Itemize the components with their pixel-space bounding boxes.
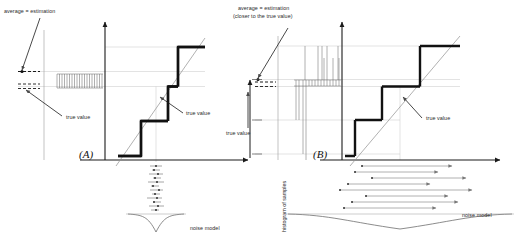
panel-b-true-value-label-right: true value — [426, 115, 450, 121]
panel-b-guides — [255, 46, 460, 154]
panel-b-histogram-axis-label: histogram of samples — [281, 181, 287, 232]
panel-b-true-value-label-left: true value — [226, 130, 250, 136]
figure-canvas: average = estimation true value true val… — [0, 0, 518, 242]
panel-b-true-value-pointer-right — [403, 97, 422, 118]
panel-a-sample-dots — [152, 165, 160, 211]
panel-b-identity-line — [350, 36, 460, 166]
panel-a-noise-model-label: noise model — [190, 225, 220, 231]
panel-a-identity-line — [116, 38, 205, 166]
panel-b-noise-model-label: noise model — [462, 212, 492, 218]
panel-a-average-dot — [20, 70, 23, 73]
panel-a-true-value-pointer-right — [160, 97, 183, 113]
panel-b-sample-lines — [340, 166, 472, 208]
panel-b-sample-dots — [339, 165, 373, 209]
panel-a-id: (A) — [79, 148, 93, 160]
panel-b-staircase — [345, 46, 460, 156]
panel-b-id: (B) — [313, 148, 327, 160]
panel-a-true-value-label-left: true value — [66, 114, 90, 120]
panel-b-average-label-line2: (closer to the true value) — [233, 13, 293, 19]
panel-a-staircase — [118, 47, 205, 156]
panel-a-sample-comb — [57, 74, 103, 88]
panel-b — [248, 22, 514, 229]
panel-a-staircase-outline — [118, 47, 205, 156]
panel-a-noise-model-curve — [128, 214, 184, 232]
panel-a-average-pointer — [22, 18, 40, 70]
panel-a — [18, 18, 248, 232]
panel-b-level-ticks — [252, 80, 262, 155]
panel-b-histogram-bars — [296, 58, 339, 160]
panel-a-sample-scatter — [147, 166, 164, 210]
panel-b-average-label-line1: average = estimation — [238, 5, 289, 11]
panel-a-average-label: average = estimation — [4, 8, 55, 14]
panel-b-average-pointer — [258, 28, 288, 78]
panel-a-true-value-label-right: true value — [186, 110, 210, 116]
